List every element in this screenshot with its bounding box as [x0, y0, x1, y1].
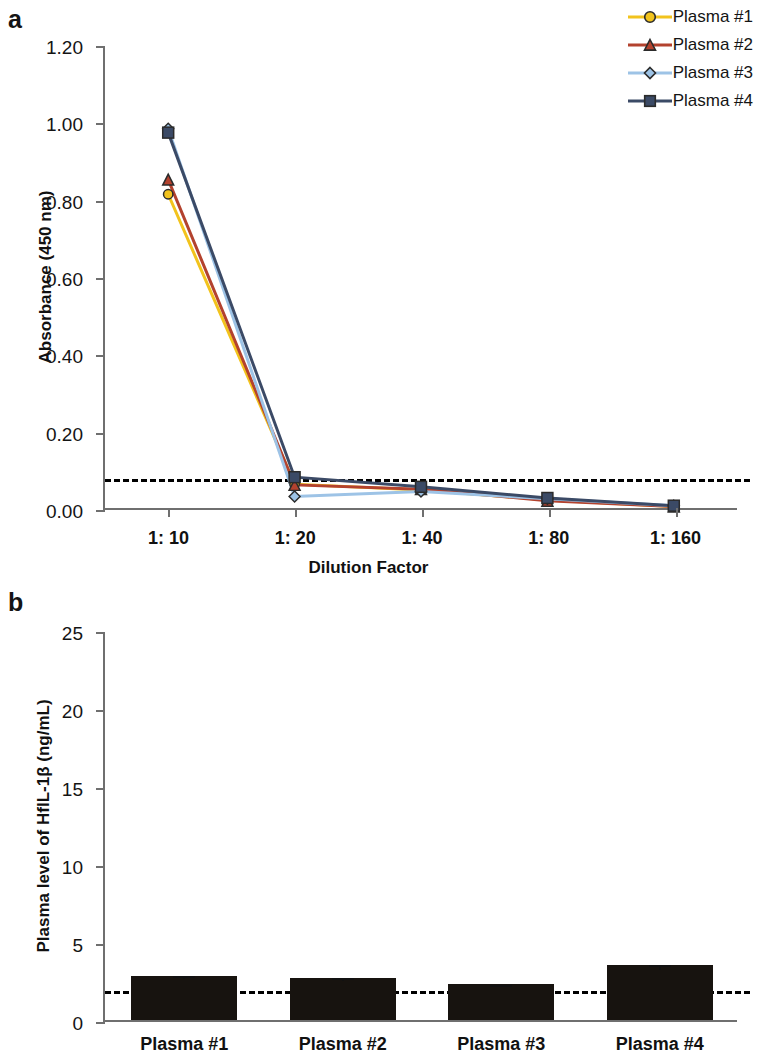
panel-a-y-tick: 0.40: [96, 355, 105, 357]
panel-a-x-tick-label: 1: 10: [148, 528, 189, 549]
panel-b-y-tick-label: 25: [62, 623, 83, 645]
panel-a-y-tick-label: 1.20: [46, 37, 83, 59]
bar-3: [448, 984, 554, 1020]
error-bar-cap-3: [490, 985, 512, 987]
panel-b-y-tick-label: 0: [72, 1013, 83, 1035]
panel-a-x-tick: [676, 508, 678, 517]
panel-b-x-tick-label: Plasma #1: [140, 1034, 228, 1055]
panel-a-y-tick-label: 0.80: [46, 191, 83, 213]
panel-a-y-tick: 0.20: [96, 433, 105, 435]
panel-a-label: a: [8, 5, 21, 34]
panel-b-y-tick: 25: [96, 632, 105, 634]
panel-a-y-tick-label: 0.20: [46, 423, 83, 445]
panel-b-y-tick: 15: [96, 788, 105, 790]
panel-a-y-tick: 1.20: [96, 46, 105, 48]
panel-a-plot-area: 0.000.200.400.600.801.001.201: 101: 201:…: [103, 46, 737, 510]
panel-a-y-tick-label: 0.60: [46, 269, 83, 291]
bar-2: [290, 978, 396, 1020]
panel-a-y-tick: 0.60: [96, 278, 105, 280]
legend-item-1: Plasma #1: [628, 6, 753, 27]
panel-a-y-tick: 0.80: [96, 201, 105, 203]
panel-a-x-tick-label: 1: 40: [401, 528, 442, 549]
error-bar-cap-4: [649, 965, 671, 967]
panel-a-x-tick-label: 1: 160: [650, 528, 701, 549]
panel-b-x-tick-label: Plasma #4: [616, 1034, 704, 1055]
panel-a-x-axis-title: Dilution Factor: [0, 558, 737, 578]
panel-b-x-tick-label: Plasma #3: [457, 1034, 545, 1055]
panel-a-x-tick: [168, 508, 170, 517]
triangle-marker-icon: [628, 37, 672, 53]
panel-b-y-tick: 20: [96, 710, 105, 712]
legend-item-4: Plasma #4: [628, 90, 753, 111]
panel-b: b Plasma level of HfIL-1β (ng/mL) 051015…: [0, 580, 759, 1059]
bar-1: [131, 976, 237, 1020]
legend-item-label: Plasma #1: [672, 7, 753, 27]
panel-a-series-layer: [105, 46, 737, 508]
panel-b-plot-area: 0510152025Plasma #1Plasma #2Plasma #3Pla…: [103, 632, 737, 1022]
panel-b-y-tick-label: 5: [72, 935, 83, 957]
panel-a-y-tick-label: 0.40: [46, 346, 83, 368]
legend: Plasma #1Plasma #2Plasma #3Plasma #4: [628, 6, 753, 111]
panel-b-y-axis-title: Plasma level of HfIL-1β (ng/mL): [34, 616, 54, 1036]
panel-b-y-tick-label: 20: [62, 701, 83, 723]
panel-b-y-tick: 10: [96, 866, 105, 868]
bar-4: [607, 965, 713, 1020]
panel-a-y-tick: 0.00: [96, 510, 105, 512]
legend-item-label: Plasma #3: [672, 63, 753, 83]
error-bar-cap-2: [332, 978, 354, 980]
error-bar-cap-1: [173, 976, 195, 978]
legend-item-label: Plasma #2: [672, 35, 753, 55]
panel-b-y-tick: 0: [96, 1022, 105, 1024]
legend-item-label: Plasma #4: [672, 91, 753, 111]
panel-a-x-tick: [295, 508, 297, 517]
square-marker-icon: [628, 93, 672, 109]
diamond-marker-icon: [628, 65, 672, 81]
panel-b-y-tick-label: 15: [62, 779, 83, 801]
panel-a-x-tick-label: 1: 80: [528, 528, 569, 549]
panel-a-y-tick-label: 1.00: [46, 114, 83, 136]
panel-b-label: b: [8, 588, 23, 617]
panel-a-y-tick-label: 0.00: [46, 501, 83, 523]
circle-marker-icon: [628, 9, 672, 25]
legend-item-3: Plasma #3: [628, 62, 753, 83]
figure-root: a Absorbance (450 nm) 0.000.200.400.600.…: [0, 0, 759, 1059]
panel-a-x-tick: [422, 508, 424, 517]
panel-b-y-tick: 5: [96, 944, 105, 946]
panel-a-x-tick-label: 1: 20: [275, 528, 316, 549]
panel-a-x-tick: [549, 508, 551, 517]
panel-b-x-tick-label: Plasma #2: [299, 1034, 387, 1055]
panel-a-y-tick: 1.00: [96, 123, 105, 125]
legend-item-2: Plasma #2: [628, 34, 753, 55]
panel-b-y-tick-label: 10: [62, 857, 83, 879]
panel-a: a Absorbance (450 nm) 0.000.200.400.600.…: [0, 0, 759, 575]
